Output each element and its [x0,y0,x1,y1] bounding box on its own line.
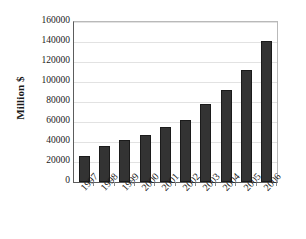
bar [180,120,191,182]
y-axis-tick-label: 100000 [26,76,70,86]
plot-area [73,21,278,183]
y-axis-tick-label: 160000 [26,16,70,26]
bar [221,90,232,182]
y-axis-tick-labels: 0200004000060000800001000001200001400001… [26,21,70,181]
bar [200,104,211,182]
bar [241,70,252,183]
y-axis-tick-label: 120000 [26,56,70,66]
y-axis-tick-label: 20000 [26,156,70,166]
y-axis-tick-label: 40000 [26,136,70,146]
y-axis-tick-label: 0 [26,176,70,186]
y-axis-tick-label: 80000 [26,96,70,106]
bar [261,41,272,182]
y-axis-tick-label: 60000 [26,116,70,126]
y-axis-tick-label: 140000 [26,36,70,46]
x-axis-tick-labels: 1997199819992000200120022003200420052006 [73,186,288,238]
bar-chart-figure: Million $ 020000400006000080000100000120… [0,0,306,239]
bar-series [74,22,277,182]
